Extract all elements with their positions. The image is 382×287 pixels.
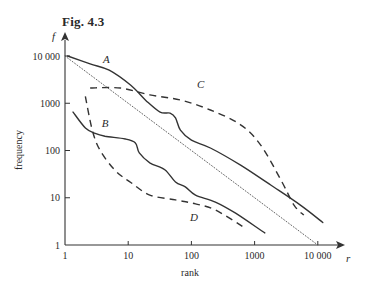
y-tick-label: 100 — [45, 145, 60, 156]
series-line-a — [68, 56, 323, 223]
series-line-d — [85, 96, 244, 228]
y-axis-arrow — [61, 32, 69, 41]
y-tick-label: 1000 — [40, 98, 60, 109]
y-tick-label: 1 — [55, 240, 60, 251]
x-tick-label: 1 — [63, 250, 68, 261]
chart: 110100100010 000110100100010 000rankfreq… — [0, 0, 382, 287]
series-line-b — [73, 112, 265, 233]
y-tick-label: 10 — [50, 192, 60, 203]
series-label-b: B — [102, 117, 109, 129]
y-tick-label: 10 000 — [33, 51, 61, 62]
x-axis-symbol: r — [346, 252, 351, 264]
series-label-c: C — [197, 78, 205, 90]
y-axis-title: frequency — [13, 130, 24, 170]
x-tick-label: 1000 — [245, 250, 265, 261]
series-label-d: D — [189, 211, 198, 223]
x-axis-title: rank — [181, 267, 199, 278]
y-axis-symbol: f — [52, 30, 57, 42]
labels: 110100100010 000110100100010 000rankfreq… — [13, 30, 351, 278]
x-tick-label: 10 000 — [304, 250, 332, 261]
x-tick-label: 100 — [184, 250, 199, 261]
x-tick-label: 10 — [123, 250, 133, 261]
series-label-a: A — [102, 53, 110, 65]
